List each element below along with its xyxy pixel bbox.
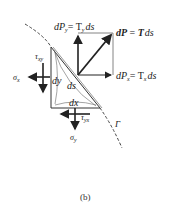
figure-caption: (b) <box>80 192 91 202</box>
label-dPy: dPy= Tyds <box>54 21 95 33</box>
traction-vectors <box>78 33 113 75</box>
left-stress-arrows <box>29 63 50 92</box>
label-boundary-gamma: Γ <box>114 119 121 129</box>
label-sigma-x: σx <box>13 73 20 83</box>
label-dP: dP = Tds <box>116 27 154 38</box>
traction-diagram: dPy= Tyds dP = Tds dPx= Txds τxy σx dy d… <box>0 0 175 209</box>
label-tau-xy: τxy <box>35 52 44 62</box>
label-dx: dx <box>69 97 79 108</box>
label-sigma-y: σy <box>70 133 77 143</box>
boundary-curve <box>25 24 51 47</box>
label-dy: dy <box>52 75 62 86</box>
label-ds: ds <box>67 80 76 91</box>
label-dPx: dPx= Txds <box>116 70 157 82</box>
